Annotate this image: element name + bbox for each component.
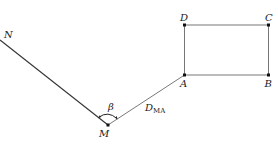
label-c: C: [265, 12, 273, 23]
distance-subscript: MA: [153, 107, 166, 115]
label-b: B: [264, 78, 272, 89]
point-d: [183, 24, 186, 27]
angle-arc-beta: [99, 114, 118, 119]
point-m: [107, 124, 110, 127]
point-b: [267, 74, 270, 77]
point-c: [267, 24, 270, 27]
label-m: M: [98, 128, 110, 139]
label-n: N: [3, 29, 14, 40]
point-a: [183, 74, 186, 77]
rectangle-abcd: [185, 25, 269, 75]
traverse-diagram: N M β A B C D DMA: [0, 0, 278, 146]
label-beta: β: [107, 101, 114, 112]
distance-main: D: [144, 102, 153, 113]
label-a: A: [179, 78, 187, 89]
angle-arrow-left-icon: [99, 115, 101, 118]
label-distance-ma: DMA: [144, 102, 166, 115]
line-n-m: [0, 40, 108, 125]
line-m-a: [108, 75, 185, 125]
label-d: D: [179, 12, 188, 23]
